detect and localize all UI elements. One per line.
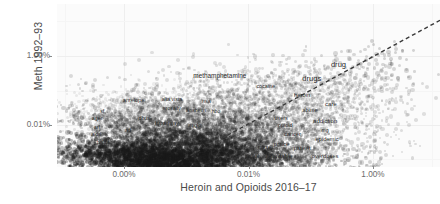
x-axis: 0.00% 0.01% 1.00% — [0, 0, 440, 204]
x-tick-mark-1 — [249, 166, 250, 169]
y-axis-title: Meth 1992–93 — [32, 0, 44, 116]
x-tick-mark-0 — [124, 166, 125, 169]
x-axis-title: Heroin and Opioids 2016–17 — [57, 181, 440, 193]
x-tick-mark-2 — [373, 166, 374, 169]
x-tick-label-0: 0.00% — [112, 170, 135, 179]
x-tick-label-2: 1.00% — [361, 170, 384, 179]
chart-root: drugdrugsmethamphetamineheroincocainecar… — [0, 0, 440, 204]
x-tick-label-1: 0.01% — [237, 170, 260, 179]
